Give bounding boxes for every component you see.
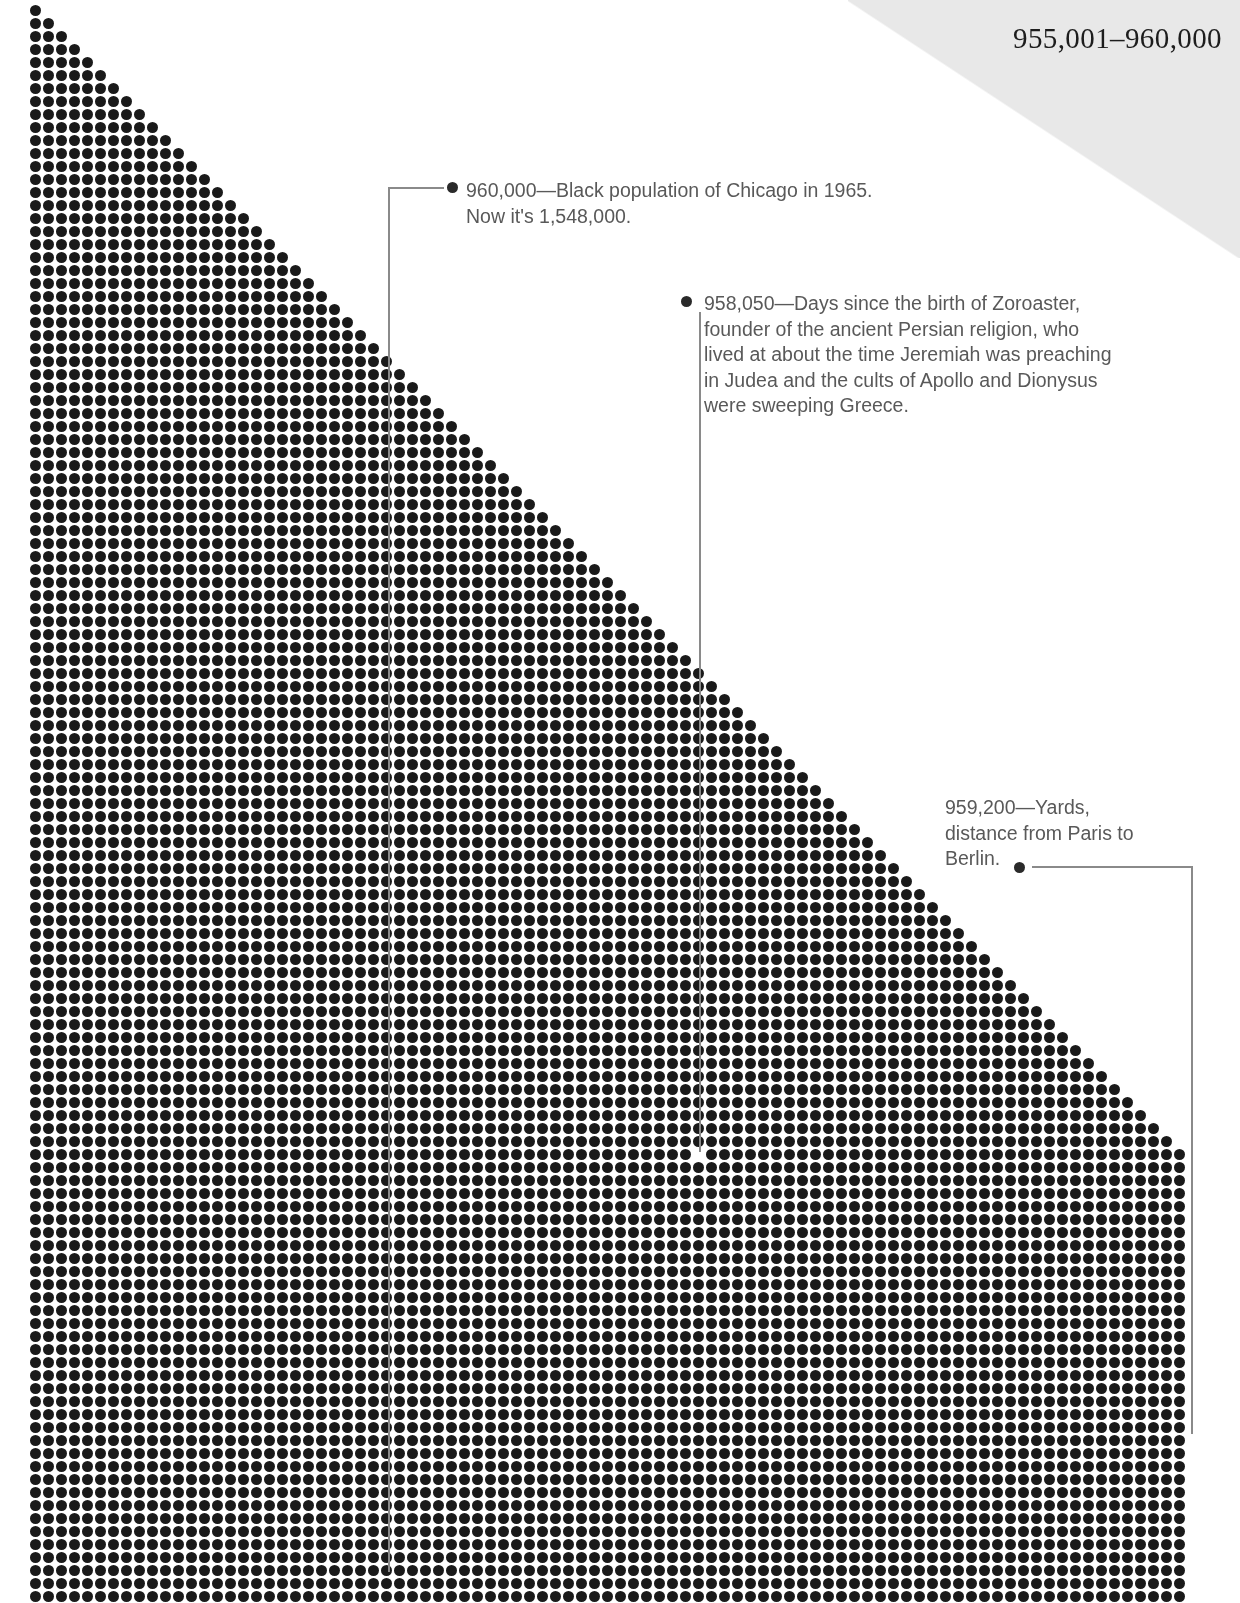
callout-text-960000: 960,000—Black population of Chicago in 1…	[466, 178, 986, 229]
leader-line-vertical-958050	[699, 312, 701, 1152]
leader-line-horizontal-960000	[388, 187, 444, 189]
callout-text-958050: 958,050—Days since the birth of Zoroaste…	[704, 291, 1204, 419]
page-range-title: 955,001–960,000	[848, 0, 1240, 76]
leader-line-vertical-959200	[1191, 866, 1193, 1434]
leader-line-vertical-960000	[388, 187, 390, 1572]
callout-bullet-960000	[447, 182, 458, 193]
callout-bullet-958050	[681, 296, 692, 307]
tally-dot-page: 955,001–960,000 960,000—Black population…	[0, 0, 1240, 1603]
callout-text-959200: 959,200—Yards, distance from Paris to Be…	[945, 795, 1195, 872]
